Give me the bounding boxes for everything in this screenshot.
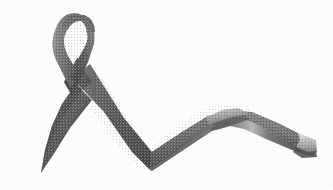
ribbon-illustration [0,0,333,190]
image-canvas: Grey looped awareness ribbon with long t… [0,0,333,190]
ribbon-texture-group [0,0,333,190]
ribbon-dither-texture [0,0,333,190]
